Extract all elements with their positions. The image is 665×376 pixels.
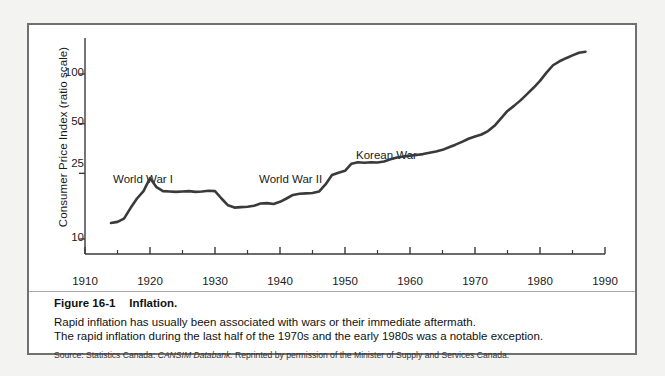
figure-frame: Consumer Price Index (ratio scale) 100 5… bbox=[27, 23, 637, 355]
figure-source: Source: Statistics Canada: CANSIM Databa… bbox=[54, 350, 619, 361]
figure-description-line-1: Rapid inflation has usually been associa… bbox=[54, 315, 619, 329]
figure-page: Consumer Price Index (ratio scale) 100 5… bbox=[0, 0, 665, 376]
caption-divider bbox=[29, 291, 635, 292]
axis-ticks bbox=[79, 74, 605, 254]
chart-svg bbox=[29, 25, 639, 287]
cpi-line-series bbox=[111, 52, 586, 223]
figure-title: Inflation. bbox=[129, 297, 177, 309]
figure-description-line-2: The rapid inflation during the last half… bbox=[54, 329, 619, 343]
figure-heading: Figure 16-1Inflation. bbox=[54, 297, 619, 309]
axis-lines bbox=[85, 38, 605, 254]
source-prefix: Source: Statistics Canada: bbox=[54, 350, 155, 360]
figure-number: Figure 16-1 bbox=[54, 297, 115, 309]
source-database: CANSIM Databank. bbox=[158, 350, 233, 360]
caption-block: Figure 16-1Inflation. Rapid inflation ha… bbox=[54, 297, 619, 370]
source-suffix: Reprinted by permission of the Minister … bbox=[235, 350, 509, 360]
chart-plot-area: Consumer Price Index (ratio scale) 100 5… bbox=[29, 25, 639, 287]
